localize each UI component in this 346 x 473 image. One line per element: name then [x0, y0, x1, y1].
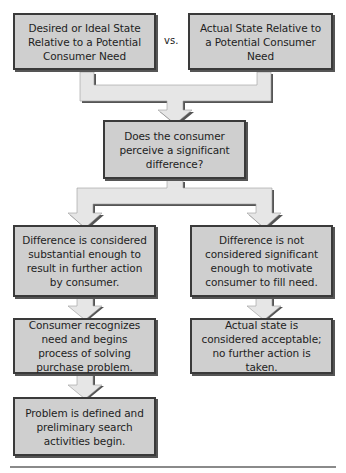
- flowchart: Desired or Ideal State Relative to a Pot…: [0, 0, 346, 473]
- split-arrow: [68, 180, 283, 230]
- acceptable-state-label: Actual state is considered acceptable; n…: [198, 318, 325, 374]
- not-significant-label: Difference is not considered significant…: [198, 233, 325, 289]
- not-significant-box: Difference is not considered significant…: [190, 225, 333, 297]
- vs-label: vs.: [164, 35, 178, 46]
- merge-arrow: [80, 72, 273, 126]
- problem-defined-box: Problem is defined and preliminary searc…: [13, 397, 156, 456]
- substantial-difference-label: Difference is considered substantial eno…: [21, 233, 148, 289]
- actual-state-label: Actual State Relative to a Potential Con…: [196, 21, 325, 63]
- bottom-divider: [10, 466, 336, 468]
- desired-state-box: Desired or Ideal State Relative to a Pot…: [13, 13, 156, 70]
- substantial-difference-box: Difference is considered substantial eno…: [13, 225, 156, 297]
- actual-state-box: Actual State Relative to a Potential Con…: [188, 13, 333, 70]
- desired-state-label: Desired or Ideal State Relative to a Pot…: [21, 21, 148, 63]
- recognizes-need-box: Consumer recognizes need and begins proc…: [13, 318, 156, 374]
- recognizes-need-label: Consumer recognizes need and begins proc…: [21, 318, 148, 374]
- question-box: Does the consumer perceive a significant…: [103, 120, 246, 179]
- acceptable-state-box: Actual state is considered acceptable; n…: [190, 318, 333, 374]
- problem-defined-label: Problem is defined and preliminary searc…: [21, 406, 148, 448]
- question-label: Does the consumer perceive a significant…: [111, 129, 238, 171]
